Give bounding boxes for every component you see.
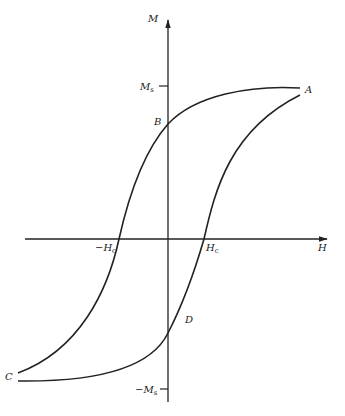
- h-axis-label: H: [317, 242, 327, 253]
- neg-ms-label: −Ms: [135, 384, 158, 397]
- ascending-branch: [18, 95, 300, 381]
- hysteresis-diagram: M H Ms −Ms Hc −Hc A B C D: [0, 0, 345, 416]
- point-c-label: C: [5, 371, 13, 382]
- hc-label: Hc: [205, 242, 219, 255]
- point-a-label: A: [304, 84, 312, 95]
- point-b-label: B: [153, 116, 161, 127]
- ms-label: Ms: [139, 81, 154, 94]
- m-axis-label: M: [147, 13, 159, 24]
- descending-branch: [18, 87, 300, 373]
- point-d-label: D: [184, 314, 193, 325]
- neg-hc-label: −Hc: [95, 242, 116, 255]
